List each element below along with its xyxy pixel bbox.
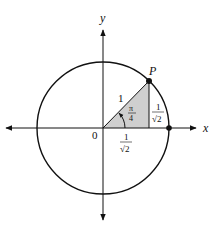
unit-circle-diagram: y x 0 P 1 π 4 1 √2 1 √2	[0, 0, 218, 229]
vertical-leg-label: 1 √2	[152, 102, 164, 124]
point-x-intercept-dot	[166, 125, 172, 131]
angle-label-denominator: 4	[129, 114, 133, 123]
vertical-leg-numerator: 1	[156, 102, 161, 112]
point-p-dot	[146, 78, 152, 84]
hypotenuse-label: 1	[118, 92, 124, 104]
vertical-leg-denominator: √2	[152, 114, 161, 124]
x-axis-label: x	[202, 121, 209, 135]
point-p-label: P	[148, 64, 157, 78]
angle-label-numerator: π	[129, 104, 133, 113]
horizontal-leg-numerator: 1	[124, 132, 129, 142]
horizontal-leg-denominator: √2	[120, 144, 129, 154]
y-axis-label: y	[99, 11, 106, 25]
origin-label: 0	[92, 129, 98, 141]
horizontal-leg-label: 1 √2	[120, 132, 132, 154]
